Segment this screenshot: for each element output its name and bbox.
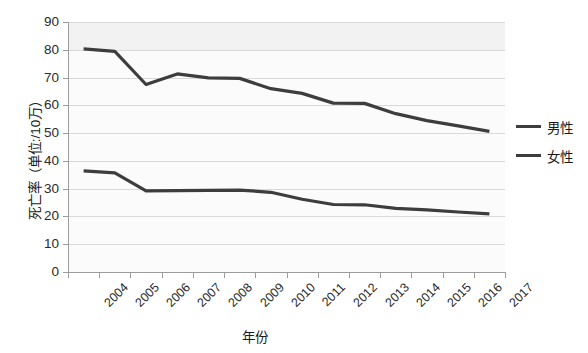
legend-swatch-female-icon [516, 154, 541, 157]
legend-item-male[interactable]: 男性 [516, 112, 586, 141]
series-line-female [84, 171, 490, 214]
series-line-male [84, 49, 490, 132]
legend: 男性 女性 [516, 112, 586, 170]
y-axis-title: 死亡率（单位:/10万） [24, 57, 44, 257]
line-chart: 9080706050403020100 20042005200620072008… [0, 0, 588, 353]
legend-label-female: 女性 [547, 146, 573, 166]
legend-item-female[interactable]: 女性 [516, 141, 586, 170]
legend-label-male: 男性 [547, 117, 573, 137]
legend-swatch-male-icon [516, 125, 541, 128]
x-axis-title: 年份 [0, 326, 510, 346]
series-layer [0, 0, 588, 353]
